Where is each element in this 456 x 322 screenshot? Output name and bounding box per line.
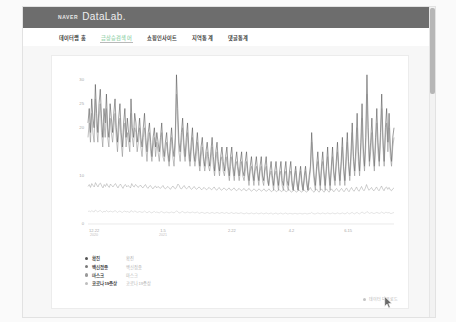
legend-dot-icon (85, 257, 88, 260)
legend-sublabel: 확진 (126, 255, 134, 261)
nav-item-2[interactable]: 쇼핑인사이트 (146, 31, 179, 44)
datalab-logo[interactable]: NAVER DataLab. (58, 11, 126, 22)
x-tick-4: 6.15 (335, 228, 361, 233)
legend-item-0[interactable]: 확진확진 (85, 254, 385, 262)
y-tick-3: 25 (70, 101, 84, 106)
nav-item-0[interactable]: 데이터랩 홈 (58, 31, 87, 44)
chart-series-0 (88, 75, 394, 191)
legend-sublabel: 백신접종 (126, 264, 142, 270)
legend-item-3[interactable]: 코로나19증상코로나19증상 (85, 279, 385, 287)
legend-dot-icon (85, 273, 88, 276)
line-chart[interactable]: 010202530 12.2220201.520212.224.26.15 (52, 56, 408, 256)
legend-sublabel: 마스크 (126, 272, 138, 278)
screenshot-viewport: NAVER DataLab. 데이터랩 홈급상승검색어쇼핑인사이트지역통계댓글통… (0, 0, 456, 322)
browser-window: NAVER DataLab. 데이터랩 홈급상승검색어쇼핑인사이트지역통계댓글통… (22, 6, 436, 318)
x-tick-0: 12.222020 (81, 228, 107, 238)
y-tick-0: 0 (70, 221, 84, 226)
page-content: 010202530 12.2220201.520212.224.26.15 확진… (23, 46, 435, 317)
chart-series-1 (88, 94, 394, 190)
chart-series-2 (88, 183, 394, 193)
download-icon (363, 298, 366, 301)
nav-bar: 데이터랩 홈급상승검색어쇼핑인사이트지역통계댓글통계 (23, 28, 435, 47)
x-tick-1: 1.52021 (150, 228, 176, 238)
mouse-cursor-icon (384, 296, 393, 309)
legend-label: 코로나19증상 (92, 280, 122, 286)
nav-items: 데이터랩 홈급상승검색어쇼핑인사이트지역통계댓글통계 (58, 28, 249, 46)
legend-item-2[interactable]: 마스크마스크 (85, 271, 385, 279)
chart-canvas (52, 56, 408, 256)
y-tick-4: 30 (70, 77, 84, 82)
chart-series-3 (88, 210, 394, 214)
legend-label: 백신접종 (92, 264, 122, 270)
legend-item-1[interactable]: 백신접종백신접종 (85, 262, 385, 270)
legend-label: 마스크 (92, 272, 122, 278)
naver-wordmark: NAVER (58, 14, 78, 20)
chart-legend: 확진확진백신접종백신접종마스크마스크코로나19증상코로나19증상 (85, 254, 385, 288)
x-tick-2: 2.22 (219, 228, 245, 233)
x-tick-3: 4.2 (278, 228, 304, 233)
legend-dot-icon (85, 282, 88, 285)
datalab-wordmark: DataLab. (82, 11, 126, 22)
legend-label: 확진 (92, 255, 122, 261)
legend-sublabel: 코로나19증상 (126, 280, 151, 286)
y-tick-1: 10 (70, 173, 84, 178)
nav-item-3[interactable]: 지역통계 (191, 31, 213, 44)
nav-item-1[interactable]: 급상승검색어 (100, 31, 133, 44)
nav-item-4[interactable]: 댓글통계 (227, 31, 249, 44)
chart-card: 010202530 12.2220201.520212.224.26.15 확진… (51, 55, 409, 309)
global-header: NAVER DataLab. (23, 7, 435, 28)
vertical-scrollbar[interactable] (429, 7, 435, 317)
y-tick-2: 20 (70, 125, 84, 130)
legend-dot-icon (85, 265, 88, 268)
scrollbar-thumb[interactable] (430, 8, 435, 94)
